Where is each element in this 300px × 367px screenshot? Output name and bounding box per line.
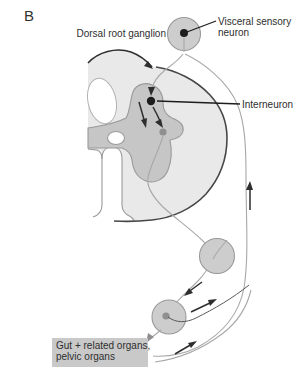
visceral-sensory-label-line1: Visceral sensory: [218, 16, 291, 27]
interneuron-label: Interneuron: [242, 99, 293, 110]
ascending-flow-arrowhead: [246, 181, 253, 190]
panel-label: B: [24, 7, 34, 24]
organ-box-label-line1: Gut + related organs,: [56, 340, 150, 351]
gut-ascending-arrowhead: [188, 341, 197, 348]
interneuron-soma: [147, 97, 155, 105]
visceral-sensory-neuron-soma: [180, 29, 188, 37]
ganglion2-ascending-arrowhead: [208, 299, 217, 306]
organ-box-label-line2: pelvic organs: [56, 351, 115, 362]
visceral-sensory-label-line2: neuron: [218, 27, 249, 38]
ganglion2-ascending-arrow-shaft: [191, 302, 212, 312]
preganglionic-neuron-soma: [159, 128, 166, 135]
central-canal: [108, 132, 125, 145]
pathway-diagram: B Dorsal root ganglion Visceral sensory …: [0, 0, 300, 367]
figure-panel: B Dorsal root ganglion Visceral sensory …: [0, 0, 300, 367]
dorsal-root-ganglion-label: Dorsal root ganglion: [77, 28, 167, 39]
sympathetic-ganglion-1: [200, 239, 235, 274]
postganglionic-neuron-soma: [162, 312, 169, 319]
